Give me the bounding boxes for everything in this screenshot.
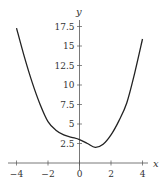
y-tick-label: 12.5	[54, 61, 74, 71]
x-tick-label: −4	[10, 169, 24, 179]
x-tick-label: 0	[77, 169, 83, 179]
x-tick-label: −2	[41, 169, 54, 179]
axes: x y	[8, 6, 159, 170]
y-tick-label: 7.5	[60, 100, 75, 110]
y-tick-label: 2.5	[60, 139, 75, 149]
y-axis-label: y	[75, 6, 82, 17]
x-tick-label: 4	[140, 169, 146, 179]
x-axis-label: x	[153, 158, 159, 169]
y-ticks: 2.557.51012.51517.5	[54, 22, 82, 149]
chart: x y −4−2024 2.557.51012.51517.5	[0, 0, 165, 190]
x-tick-label: 2	[108, 169, 114, 179]
y-tick-label: 10	[63, 80, 75, 90]
y-tick-label: 17.5	[54, 22, 74, 32]
y-tick-label: 5	[69, 119, 75, 129]
y-tick-label: 15	[63, 41, 75, 51]
